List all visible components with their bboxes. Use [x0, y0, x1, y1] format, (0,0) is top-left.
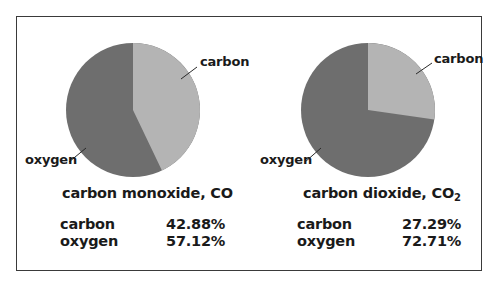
- chart-title-co: carbon monoxide, CO: [62, 185, 233, 201]
- table-row-label: oxygen: [60, 233, 118, 249]
- table-row-value: 27.29%: [402, 216, 461, 232]
- chart-title-text: carbon dioxide, CO: [303, 185, 454, 201]
- chart-title-subscript: 2: [454, 192, 461, 203]
- slice-label-carbon: carbon: [434, 52, 483, 66]
- table-row-label: carbon: [297, 216, 352, 232]
- table-row-label: carbon: [60, 216, 115, 232]
- pie-chart-co: [66, 43, 200, 177]
- slice-label-oxygen: oxygen: [260, 153, 312, 167]
- table-row-label: oxygen: [297, 233, 355, 249]
- table-row-value: 42.88%: [166, 216, 225, 232]
- slice-label-oxygen: oxygen: [25, 153, 77, 167]
- table-row-value: 57.12%: [166, 233, 225, 249]
- slice-label-carbon: carbon: [200, 55, 249, 69]
- pie-chart-co2: [301, 43, 435, 177]
- pie-slice-carbon: [368, 43, 435, 120]
- table-row-value: 72.71%: [402, 233, 461, 249]
- chart-title-co2: carbon dioxide, CO2: [303, 185, 461, 201]
